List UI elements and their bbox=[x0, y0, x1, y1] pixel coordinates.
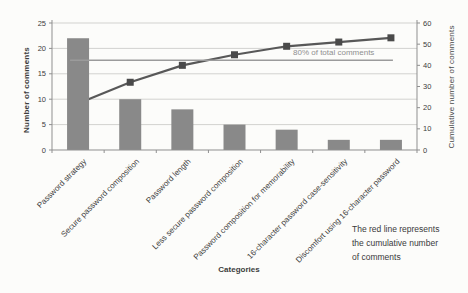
y-left-tick-label: 5 bbox=[22, 120, 46, 129]
line-marker bbox=[231, 51, 238, 58]
line-marker bbox=[127, 79, 134, 86]
y-right-tick-label: 30 bbox=[423, 82, 447, 91]
bar bbox=[380, 140, 402, 150]
note-line-3: of comments bbox=[352, 250, 439, 264]
bar bbox=[224, 125, 246, 150]
bar bbox=[276, 130, 298, 150]
bar bbox=[67, 38, 89, 150]
y-right-tick-label: 0 bbox=[423, 146, 447, 155]
note-line-1: The red line represents bbox=[352, 222, 439, 236]
line-marker bbox=[179, 62, 186, 69]
eighty-percent-label: 80% of total comments bbox=[293, 48, 374, 57]
y-right-tick-label: 10 bbox=[423, 124, 447, 133]
line-marker bbox=[283, 43, 290, 50]
note-line-2: the cumulative number bbox=[352, 236, 439, 250]
line-marker bbox=[335, 39, 342, 46]
line-marker bbox=[387, 34, 394, 41]
y-right-tick-label: 60 bbox=[423, 19, 447, 28]
y-right-tick-label: 20 bbox=[423, 103, 447, 112]
note-text: The red line represents the cumulative n… bbox=[352, 222, 439, 264]
y-right-tick-label: 40 bbox=[423, 61, 447, 70]
x-axis-title: Categories bbox=[218, 265, 259, 274]
y-axis-title-right: Cumulative number of comments bbox=[447, 25, 456, 148]
y-left-tick-label: 15 bbox=[22, 69, 46, 78]
y-left-tick-label: 25 bbox=[22, 19, 46, 28]
y-right-tick-label: 50 bbox=[423, 40, 447, 49]
y-left-tick-label: 20 bbox=[22, 44, 46, 53]
y-left-tick-label: 10 bbox=[22, 95, 46, 104]
y-left-tick-label: 0 bbox=[22, 146, 46, 155]
bar bbox=[119, 99, 141, 150]
pareto-chart: Number of comments Cumulative number of … bbox=[0, 0, 468, 293]
bar bbox=[171, 109, 193, 150]
bar bbox=[328, 140, 350, 150]
